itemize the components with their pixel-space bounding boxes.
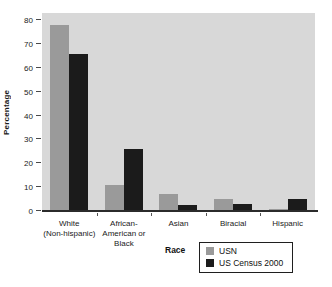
y-tick-mark bbox=[36, 19, 41, 20]
y-tick-label: 50 bbox=[3, 88, 33, 97]
y-tick-mark bbox=[36, 186, 41, 187]
bar-chart: Percentage 01020304050607080 White(Non-h… bbox=[0, 0, 332, 287]
plot-area bbox=[42, 13, 315, 211]
bar-group bbox=[260, 13, 315, 211]
y-tick-label: 60 bbox=[3, 64, 33, 73]
y-tick-label: 70 bbox=[3, 40, 33, 49]
bar-group bbox=[97, 13, 152, 211]
y-tick-mark bbox=[36, 138, 41, 139]
y-tick-label: 20 bbox=[3, 159, 33, 168]
legend-swatch-usn bbox=[206, 247, 214, 255]
legend-label-usn: USN bbox=[219, 246, 237, 256]
x-category-label: Biracial bbox=[206, 219, 261, 229]
y-axis: 01020304050607080 bbox=[0, 13, 42, 211]
x-category-label: African-American orBlack bbox=[97, 219, 152, 249]
y-tick-mark bbox=[36, 43, 41, 44]
y-tick-mark bbox=[36, 162, 41, 163]
bar-group bbox=[151, 13, 206, 211]
x-tick-mark bbox=[206, 213, 207, 216]
x-tick-mark bbox=[151, 213, 152, 216]
y-tick-mark bbox=[36, 67, 41, 68]
legend-item-usn: USN bbox=[206, 246, 283, 256]
y-tick-label: 40 bbox=[3, 112, 33, 121]
y-tick-label: 10 bbox=[3, 183, 33, 192]
x-category-label: Asian bbox=[151, 219, 206, 229]
y-tick-label: 80 bbox=[3, 16, 33, 25]
bar-group bbox=[42, 13, 97, 211]
bar-usn bbox=[105, 185, 124, 211]
x-category-label: Hispanic bbox=[260, 219, 315, 229]
y-tick-mark bbox=[36, 91, 41, 92]
legend-swatch-census bbox=[206, 259, 214, 267]
x-axis-title: Race bbox=[165, 245, 185, 255]
x-tick-mark bbox=[97, 213, 98, 216]
bar-us-census-2000 bbox=[69, 54, 88, 211]
bar-usn bbox=[159, 194, 178, 211]
x-tick-mark bbox=[260, 213, 261, 216]
bar-group bbox=[206, 13, 261, 211]
bar-usn bbox=[50, 25, 69, 211]
legend-label-census: US Census 2000 bbox=[219, 258, 283, 268]
y-tick-label: 0 bbox=[3, 207, 33, 216]
x-axis-ticks bbox=[42, 212, 315, 216]
y-tick-mark bbox=[36, 210, 41, 211]
bar-us-census-2000 bbox=[124, 149, 143, 211]
y-tick-mark bbox=[36, 115, 41, 116]
x-category-label: White(Non-hispanic) bbox=[42, 219, 97, 239]
legend-item-census: US Census 2000 bbox=[206, 258, 283, 268]
y-tick-label: 30 bbox=[3, 135, 33, 144]
legend: USN US Census 2000 bbox=[199, 242, 293, 273]
